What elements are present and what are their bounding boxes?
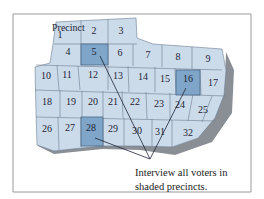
precinct-label-17: 17 — [201, 78, 225, 88]
precinct-label-16: 16 — [176, 74, 200, 84]
precinct-label-11: 11 — [55, 70, 79, 80]
precinct-label-15: 15 — [153, 74, 177, 84]
precinct-label-19: 19 — [59, 97, 83, 107]
precinct-label-26: 26 — [35, 124, 59, 134]
precinct-label-8: 8 — [166, 52, 190, 62]
precinct-label-4: 4 — [56, 47, 80, 57]
caption-line-2: shaded precincts. — [135, 180, 227, 194]
precinct-label-21: 21 — [101, 97, 125, 107]
precinct-label-18: 18 — [35, 97, 59, 107]
precinct-label-6: 6 — [108, 48, 132, 58]
precinct-label-9: 9 — [196, 54, 220, 64]
caption: Interview all voters in shaded precincts… — [135, 166, 227, 194]
precinct-label-2: 2 — [82, 26, 106, 36]
precinct-label-32: 32 — [176, 128, 200, 138]
precinct-label-31: 31 — [148, 127, 172, 137]
precinct-label-25: 25 — [191, 105, 215, 115]
precinct-label-7: 7 — [136, 50, 160, 60]
precinct-label-29: 29 — [101, 124, 125, 134]
precinct-label-13: 13 — [106, 71, 130, 81]
precinct-label-22: 22 — [123, 97, 147, 107]
precinct-label-3: 3 — [109, 26, 133, 36]
caption-line-1: Interview all voters in — [135, 166, 227, 180]
precinct-label-28: 28 — [79, 123, 103, 133]
precinct-label-14: 14 — [131, 72, 155, 82]
precinct-label-24: 24 — [168, 100, 192, 110]
precinct-header-label: Precinct — [52, 23, 85, 33]
precinct-label-5: 5 — [82, 47, 106, 57]
precinct-label-30: 30 — [125, 126, 149, 136]
precinct-label-12: 12 — [81, 70, 105, 80]
